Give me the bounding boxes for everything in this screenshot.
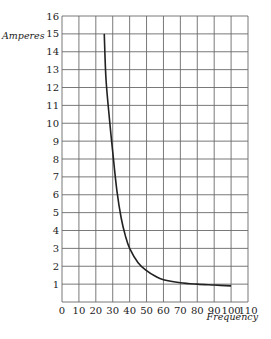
y-axis-label: Amperes — [1, 30, 45, 41]
x-tick-label: 60 — [157, 305, 170, 316]
y-tick-label: 12 — [46, 82, 59, 93]
x-axis-label: Frequency — [206, 311, 259, 322]
x-tick-label: 80 — [191, 305, 204, 316]
x-tick-label: 50 — [140, 305, 153, 316]
y-tick-label: 14 — [46, 46, 59, 57]
x-tick-label: 70 — [174, 305, 187, 316]
y-tick-label: 15 — [46, 28, 59, 39]
y-tick-label: 10 — [46, 118, 59, 129]
y-tick-label: 13 — [46, 64, 59, 75]
y-axis-ticks: 12345678910111213141516 — [46, 11, 59, 290]
y-tick-label: 7 — [53, 171, 59, 182]
grid-lines — [62, 16, 248, 302]
y-tick-label: 16 — [46, 11, 59, 22]
y-tick-label: 6 — [53, 189, 59, 200]
x-tick-label: 20 — [89, 305, 102, 316]
x-tick-label: 40 — [123, 305, 136, 316]
y-tick-label: 3 — [53, 243, 59, 254]
y-tick-label: 9 — [53, 136, 59, 147]
y-tick-label: 5 — [53, 207, 59, 218]
x-tick-label: 0 — [59, 305, 65, 316]
x-tick-label: 10 — [73, 305, 86, 316]
y-tick-label: 4 — [53, 225, 59, 236]
x-tick-label: 30 — [106, 305, 119, 316]
y-tick-label: 11 — [46, 100, 59, 111]
y-tick-label: 2 — [53, 261, 59, 272]
y-tick-label: 8 — [53, 154, 59, 165]
y-tick-label: 1 — [53, 279, 59, 290]
line-chart: 12345678910111213141516 0102030405060708… — [0, 0, 271, 339]
